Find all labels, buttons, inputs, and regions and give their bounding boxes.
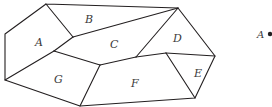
region-label-f: F xyxy=(130,77,139,90)
map-diagram: A B C D E F G A xyxy=(0,0,272,107)
edge-a-c xyxy=(54,37,73,51)
edge-c-f xyxy=(100,57,136,65)
edge-a-b xyxy=(46,4,73,37)
point-label-a: A xyxy=(256,29,264,40)
region-label-g: G xyxy=(54,73,63,86)
edge-d-f xyxy=(136,53,166,57)
region-label-e: E xyxy=(193,67,202,80)
region-label-a: A xyxy=(34,36,43,49)
edge-a-g xyxy=(5,51,54,80)
edge-d-e xyxy=(166,53,215,56)
edge-e-f xyxy=(166,53,195,98)
edge-g-c xyxy=(54,51,100,65)
edge-c-d xyxy=(136,8,178,57)
point-a-dot xyxy=(268,32,272,36)
region-label-d: D xyxy=(172,32,182,45)
outer-boundary xyxy=(5,4,215,106)
region-label-b: B xyxy=(84,13,93,26)
region-label-c: C xyxy=(110,38,119,51)
edge-g-f xyxy=(80,65,100,106)
